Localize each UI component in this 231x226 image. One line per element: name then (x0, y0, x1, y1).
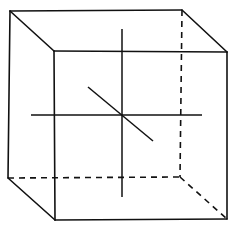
cube-edge-back-right-hidden (180, 10, 182, 177)
cube-edge-bottom-left-depth (8, 178, 55, 220)
cube-edge-front-top (54, 51, 227, 52)
cube-edge-back-top (10, 10, 182, 11)
cube-edge-back-left (8, 11, 10, 178)
cube-edge-back-bottom-hidden (8, 177, 180, 178)
depth-axis (88, 87, 153, 141)
cube-edge-top-left-depth (10, 11, 54, 51)
cube-diagram (0, 0, 231, 226)
cube-edge-bottom-right-depth-hidden (180, 177, 227, 219)
cube-edge-front-left (54, 51, 55, 220)
cube-edge-top-right-depth (182, 10, 227, 52)
cube-edge-front-bottom (55, 219, 227, 220)
